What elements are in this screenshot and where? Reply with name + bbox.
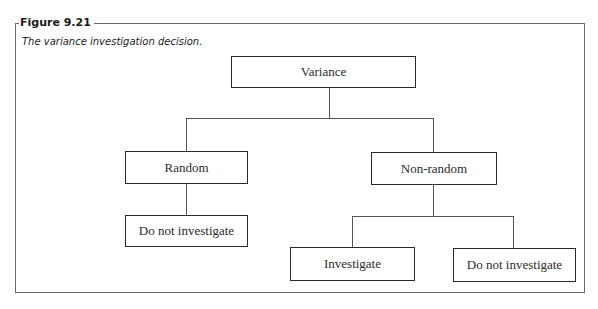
- connector-to-nonrandom-dni: [513, 216, 514, 248]
- connector-to-non-random: [433, 118, 434, 152]
- node-variance: Variance: [231, 56, 416, 88]
- figure-caption: The variance investigation decision.: [22, 35, 202, 49]
- figure-label: Figure 9.21: [19, 15, 94, 31]
- frame-right-border: [584, 23, 585, 293]
- frame-bottom-border: [15, 292, 585, 293]
- connector-level1-horizontal: [186, 118, 434, 119]
- connector-variance-down: [329, 87, 330, 119]
- node-investigate: Investigate: [290, 247, 415, 281]
- node-non-random: Non-random: [371, 152, 497, 185]
- connector-to-random: [186, 118, 187, 152]
- node-random-do-not-investigate: Do not investigate: [125, 215, 248, 247]
- connector-level2-horizontal: [352, 216, 514, 217]
- connector-non-random-down: [433, 184, 434, 217]
- node-random: Random: [125, 151, 248, 184]
- node-nonrandom-do-not-investigate: Do not investigate: [453, 248, 576, 282]
- connector-random-to-dni: [186, 183, 187, 215]
- frame-top-border: [15, 23, 585, 24]
- frame-left-border: [15, 23, 16, 293]
- connector-to-investigate: [352, 216, 353, 247]
